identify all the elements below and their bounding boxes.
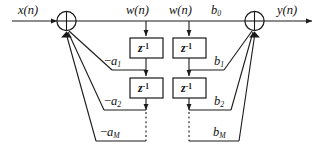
coefficient-label-b0: b0	[211, 4, 221, 17]
coefficient-label-bM: bM	[213, 126, 226, 139]
coefficient-label-a2: −a2	[104, 95, 121, 108]
delay-block-label-right-1: z-1	[181, 42, 192, 54]
coefficient-label-b1: b1	[214, 55, 224, 68]
feedback-diagonal-a2	[68, 32, 104, 110]
feedback-diagonal-aM	[66, 33, 96, 141]
signal-flow-diagram-svg	[0, 0, 320, 153]
delay-block-label-left-2: z-1	[138, 82, 149, 94]
feedforward-diagonal-bM	[239, 33, 255, 141]
figure-canvas: x(n) y(n) w(n) w(n) z-1 z-1 z-1 z-1 −a1 …	[0, 0, 320, 153]
delay-block-label-right-2: z-1	[181, 82, 192, 94]
input-signal-label: x(n)	[18, 4, 38, 17]
coefficient-label-b2: b2	[214, 95, 224, 108]
coefficient-label-a1: −a1	[104, 55, 121, 68]
coefficient-label-aM: −aM	[100, 126, 120, 139]
state-signal-label-left: w(n)	[126, 4, 149, 17]
delay-block-label-left-1: z-1	[138, 42, 149, 54]
output-signal-label: y(n)	[277, 4, 297, 17]
state-signal-label-right: w(n)	[169, 4, 192, 17]
